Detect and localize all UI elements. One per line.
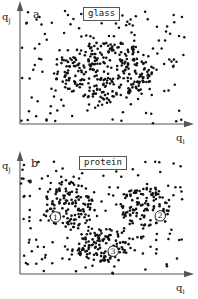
svg-text:1: 1 xyxy=(53,213,58,222)
panel-tag-protein: protein xyxy=(79,156,127,170)
y-axis-label-b-sub: j xyxy=(8,166,10,174)
cluster-3 xyxy=(77,228,132,263)
cluster-glass-central-blob xyxy=(55,42,158,105)
y-axis-label-a: qj xyxy=(2,12,11,22)
cluster-marker-3: 3 xyxy=(108,246,118,256)
svg-text:3: 3 xyxy=(111,247,116,256)
panel-tag-glass: glass xyxy=(83,7,120,21)
cluster-marker-1: 1 xyxy=(50,212,60,222)
panel-protein: 123 b protein qj qi xyxy=(0,150,198,299)
background-dots-glass xyxy=(20,10,185,125)
x-axis-label-a: qi xyxy=(176,133,185,143)
x-axis-label-a-sub: i xyxy=(182,138,184,146)
panel-glass: a glass qj qi xyxy=(0,0,198,149)
panel-letter-a: a xyxy=(33,9,40,20)
scatter-plot-protein: 123 xyxy=(0,150,198,299)
figure-container: a glass qj qi 123 b protein qj qi xyxy=(0,0,198,299)
x-axis-label-b: qi xyxy=(176,283,185,293)
x-axis-label-b-sub: i xyxy=(182,288,184,296)
svg-text:2: 2 xyxy=(158,211,163,220)
scatter-plot-glass xyxy=(0,0,198,149)
panel-letter-b: b xyxy=(31,158,38,169)
y-axis-label-b: qj xyxy=(2,161,11,171)
cluster-marker-2: 2 xyxy=(155,211,165,221)
y-axis-label-a-sub: j xyxy=(8,17,10,25)
